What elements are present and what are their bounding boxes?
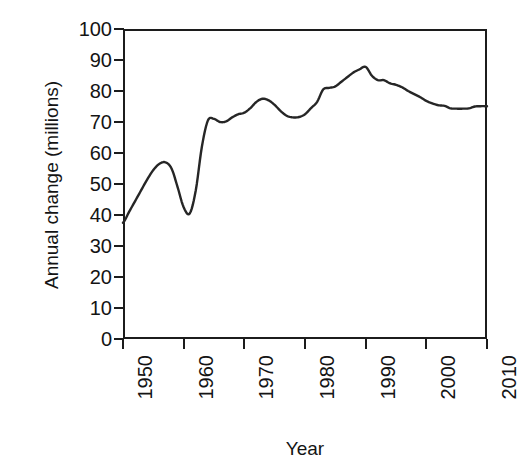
y-tick-label: 80 [58, 81, 112, 101]
y-tick-label: 50 [58, 174, 112, 194]
x-tick-mark [425, 339, 427, 349]
x-tick-mark [304, 339, 306, 349]
y-tick-mark [114, 90, 124, 92]
y-tick-label: 60 [58, 143, 112, 163]
x-tick-label: 2010 [498, 355, 520, 435]
y-tick-label: 10 [58, 298, 112, 318]
plot-area [123, 29, 487, 339]
x-tick-mark [183, 339, 185, 349]
x-tick-label: 1960 [195, 355, 217, 435]
chart-figure: Annual change (millions) 010203040506070… [0, 0, 521, 473]
y-tick-label: 20 [58, 267, 112, 287]
y-tick-label: 90 [58, 50, 112, 70]
x-tick-mark [243, 339, 245, 349]
y-tick-mark [114, 152, 124, 154]
x-tick-label: 1950 [134, 355, 156, 435]
y-tick-mark [114, 121, 124, 123]
y-tick-label: 40 [58, 205, 112, 225]
y-tick-label: 70 [58, 112, 112, 132]
x-tick-mark [486, 339, 488, 349]
y-tick-mark [114, 214, 124, 216]
y-tick-mark [114, 307, 124, 309]
x-tick-label: 1980 [316, 355, 338, 435]
y-tick-label: 30 [58, 236, 112, 256]
y-tick-mark [114, 245, 124, 247]
y-tick-mark [114, 276, 124, 278]
y-tick-label: 100 [58, 19, 112, 39]
y-tick-mark [114, 59, 124, 61]
y-axis-tick-labels: 0102030405060708090100 [56, 0, 112, 473]
x-tick-mark [122, 339, 124, 349]
x-tick-label: 1990 [377, 355, 399, 435]
x-tick-label: 1970 [255, 355, 277, 435]
y-tick-label: 0 [58, 329, 112, 349]
y-tick-mark [114, 28, 124, 30]
x-tick-label: 2000 [437, 355, 459, 435]
x-tick-mark [365, 339, 367, 349]
y-tick-mark [114, 183, 124, 185]
x-axis-title: Year [123, 438, 487, 460]
